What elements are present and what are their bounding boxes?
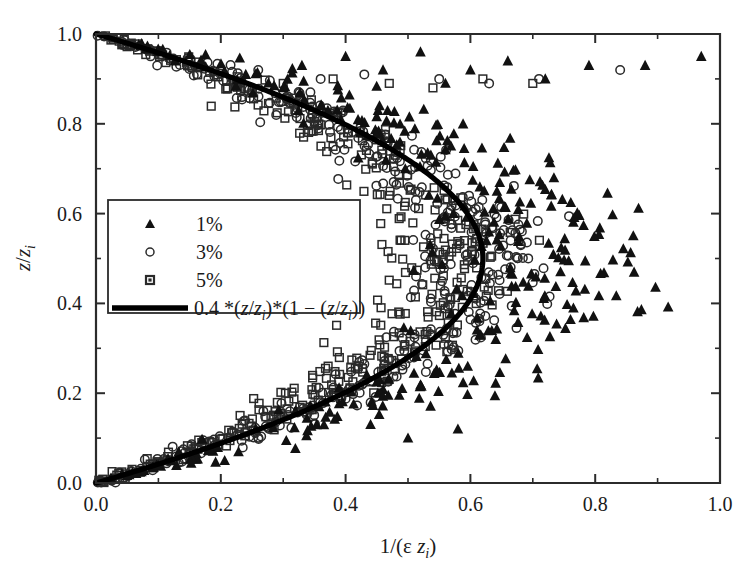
y-tick-label: 0.6: [57, 203, 82, 225]
legend-marker-square-core: [148, 278, 151, 281]
y-tick-label: 0.2: [57, 382, 82, 404]
y-tick-label: 1.0: [57, 23, 82, 45]
y-tick-label: 0.8: [57, 113, 82, 135]
legend-label-5pct: 5%: [196, 269, 223, 291]
legend-label-3pct: 3%: [196, 241, 223, 263]
legend-label-1pct: 1%: [196, 213, 223, 235]
y-tick-label: 0.0: [57, 472, 82, 494]
x-tick-label: 0.2: [208, 493, 233, 515]
x-tick-label: 0.6: [458, 493, 483, 515]
scatter-plot: 0.00.20.40.60.81.00.00.20.40.60.81.0 1/(…: [0, 0, 753, 570]
x-tick-label: 0.8: [583, 493, 608, 515]
x-tick-label: 0.0: [84, 493, 109, 515]
legend: 1%3%5%0.4 *(z/zi)*(1 − (z/zi)): [108, 200, 365, 323]
x-tick-label: 0.4: [333, 493, 358, 515]
y-tick-label: 0.4: [57, 292, 82, 314]
figure-container: 0.00.20.40.60.81.00.00.20.40.60.81.0 1/(…: [0, 0, 753, 570]
y-axis-title: z/zi: [11, 245, 38, 272]
x-tick-label: 1.0: [708, 493, 733, 515]
